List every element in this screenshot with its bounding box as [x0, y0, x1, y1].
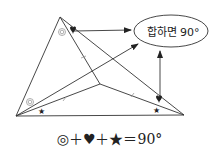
double-circle-mark-left [27, 99, 34, 106]
double-circle-mark-top [59, 29, 66, 36]
ellipse-label: 합하면 90° [138, 23, 208, 39]
heart-mark-right [156, 96, 162, 104]
star-mark-right: ★ [153, 106, 160, 115]
angle-sum-formula: ◎＋♥＋★＝90° [0, 128, 219, 148]
arrow-left-to-ellipse [16, 44, 138, 116]
arrow-top-to-ellipse [74, 30, 131, 31]
star-mark-left: ★ [38, 107, 45, 116]
